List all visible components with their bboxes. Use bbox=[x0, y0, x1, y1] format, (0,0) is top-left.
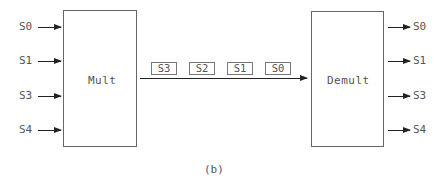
demux-output-arrow-2 bbox=[388, 96, 410, 97]
mux-label: Mult bbox=[88, 74, 117, 87]
demux-label: Demult bbox=[327, 74, 370, 87]
mux-input-label-2: S3 bbox=[19, 90, 32, 102]
mux-input-arrow-2 bbox=[38, 96, 61, 97]
channel-arrow bbox=[140, 78, 307, 79]
packet-2: S1 bbox=[227, 62, 253, 75]
mux-block: Mult bbox=[63, 10, 137, 147]
mux-input-label-3: S4 bbox=[19, 124, 32, 136]
demux-output-label-2: S3 bbox=[413, 90, 426, 102]
demux-output-arrow-1 bbox=[388, 61, 410, 62]
mux-input-label-1: S1 bbox=[19, 55, 32, 67]
demux-output-label-3: S4 bbox=[413, 124, 426, 136]
demux-output-label-0: S0 bbox=[413, 21, 426, 33]
demux-output-arrow-0 bbox=[388, 27, 410, 28]
mux-input-arrow-1 bbox=[38, 61, 61, 62]
mux-input-label-0: S0 bbox=[19, 21, 32, 33]
demux-output-arrow-3 bbox=[388, 130, 410, 131]
packet-1: S2 bbox=[189, 62, 215, 75]
demux-output-label-1: S1 bbox=[413, 55, 426, 67]
mux-input-arrow-0 bbox=[38, 27, 61, 28]
packet-3: S0 bbox=[265, 62, 291, 75]
demux-block: Demult bbox=[311, 11, 384, 147]
packet-0: S3 bbox=[151, 62, 177, 75]
figure-caption: (b) bbox=[204, 163, 224, 176]
mux-input-arrow-3 bbox=[38, 130, 61, 131]
